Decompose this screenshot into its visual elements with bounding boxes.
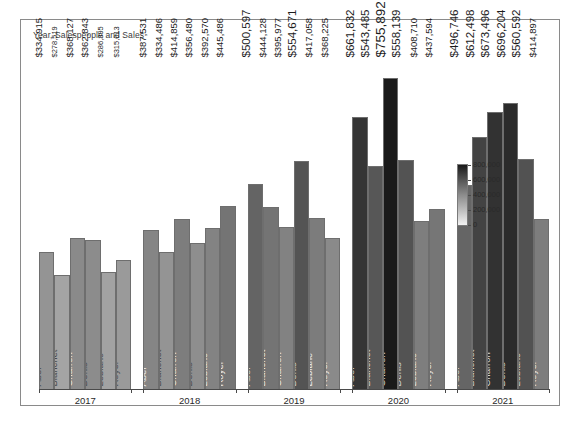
bar-name-label: Charron	[70, 352, 73, 386]
x-axis-tick	[236, 389, 237, 393]
bar[interactable]: Abel	[143, 230, 158, 390]
bar[interactable]: Leblanc	[518, 159, 533, 390]
bar[interactable]: Charron	[487, 112, 502, 390]
bar-wrapper: $661,832Abel	[352, 60, 367, 390]
x-axis-tick	[340, 389, 341, 393]
bar[interactable]: Royer	[429, 209, 444, 390]
bar-name-holder: Leblanc	[519, 341, 532, 387]
colorbar-tick-label: 800,000	[473, 161, 500, 169]
bar[interactable]: Leblanc	[309, 218, 324, 390]
bar-wrapper: $395,977Charron	[279, 60, 294, 390]
bar[interactable]: Denis	[85, 240, 100, 390]
x-label-2020: 2020	[352, 392, 444, 406]
bar-name-label: Denis	[190, 362, 193, 386]
bar-value-label: $444,128	[257, 17, 267, 57]
colorbar-tick-label: 400,000	[473, 191, 500, 199]
bar-value-label: $612,498	[464, 9, 476, 57]
bar-name-holder: Abel	[249, 341, 262, 387]
bar-name-label: Abel	[39, 367, 42, 386]
bar-name-label: Leblanc	[414, 353, 417, 386]
bar[interactable]: Denis	[398, 160, 413, 390]
bar-wrapper: $554,671Denis	[294, 60, 309, 390]
bar[interactable]: Denis	[503, 103, 518, 390]
group-spacer	[340, 60, 352, 390]
bar-name-holder: Royer	[117, 341, 130, 387]
group-spacer	[445, 60, 457, 390]
bar-value-label: $414,859	[168, 17, 178, 57]
bar-name-holder: Abel	[458, 341, 471, 387]
bar-wrapper: $368,225Royer	[325, 60, 340, 390]
bar-name-label: Blanchet	[472, 349, 475, 386]
bar[interactable]: Abel	[248, 184, 263, 390]
bar-name-label: Abel	[352, 367, 355, 386]
bar-wrapper: $437,594Royer	[429, 60, 444, 390]
bar-name-label: Denis	[294, 362, 297, 386]
x-label-2017: 2017	[39, 392, 131, 406]
bar-wrapper: $444,128Blanchet	[263, 60, 278, 390]
group-spacer	[131, 60, 143, 390]
bar[interactable]: Royer	[116, 260, 131, 390]
bar[interactable]: Denis	[294, 161, 309, 390]
bar-name-holder: Denis	[86, 341, 99, 387]
bar-name-label: Charron	[383, 352, 386, 386]
bar[interactable]: Royer	[220, 206, 235, 390]
bar[interactable]: Blanchet	[263, 207, 278, 390]
bar-name-label: Denis	[398, 362, 401, 386]
bar-name-holder: Blanchet	[473, 341, 486, 387]
bar[interactable]: Charron	[383, 78, 398, 390]
x-axis-tick	[131, 389, 132, 393]
bar-group-2017: $334,915Abel$278,519Blanchet$368,127Char…	[39, 60, 131, 390]
x-label-spacer	[131, 392, 143, 406]
x-axis-tick	[352, 389, 353, 393]
colorbar-tick-label: 0	[473, 221, 477, 229]
bar-value-label: $696,204	[495, 9, 507, 57]
bar-name-holder: Charron	[280, 341, 293, 387]
bar[interactable]: Charron	[279, 227, 294, 390]
bar-value-label: $500,597	[240, 9, 252, 57]
bar-name-label: Blanchet	[54, 349, 57, 386]
bar-name-label: Leblanc	[205, 353, 208, 386]
bar[interactable]: Leblanc	[205, 228, 220, 390]
bar[interactable]: Abel	[352, 117, 367, 390]
colorbar-tick	[468, 210, 471, 211]
bar-name-holder: Leblanc	[102, 341, 115, 387]
bar[interactable]: Blanchet	[54, 275, 69, 390]
x-axis-tick	[549, 389, 550, 393]
chart-screenshot: Year, Salespeople and Sales $334,915Abel…	[0, 0, 583, 421]
bar-name-holder: Leblanc	[415, 341, 428, 387]
bar-value-label: $661,832	[344, 9, 356, 57]
bar[interactable]: Abel	[39, 252, 54, 390]
colorbar-tick	[468, 180, 471, 181]
bar-name-holder: Royer	[326, 341, 339, 387]
bar[interactable]: Leblanc	[101, 272, 116, 390]
bar[interactable]: Royer	[534, 219, 549, 390]
bar-name-holder: Blanchet	[160, 341, 173, 387]
bar-wrapper: $315,013Royer	[116, 60, 131, 390]
bar-value-label: $286,395	[97, 26, 105, 57]
x-axis-tick	[457, 389, 458, 393]
bar[interactable]: Leblanc	[414, 221, 429, 390]
bar-name-holder: Leblanc	[310, 341, 323, 387]
colorbar-tick	[468, 225, 471, 226]
bar-name-holder: Royer	[221, 341, 234, 387]
bar-wrapper: $387,531Abel	[143, 60, 158, 390]
bar[interactable]: Denis	[190, 243, 205, 390]
bar-name-label: Royer	[534, 361, 537, 386]
bar[interactable]: Blanchet	[368, 166, 383, 390]
x-axis-tick	[248, 389, 249, 393]
bar-name-label: Royer	[116, 361, 119, 386]
bar[interactable]: Royer	[325, 238, 340, 390]
colorbar-gradient	[457, 164, 468, 226]
chart-frame: Year, Salespeople and Sales $334,915Abel…	[20, 19, 560, 406]
bar-wrapper: $334,486Blanchet	[159, 60, 174, 390]
bar[interactable]: Charron	[174, 219, 189, 390]
bar-name-label: Denis	[85, 362, 88, 386]
bar-value-label: $408,710	[408, 17, 418, 57]
bar[interactable]: Charron	[70, 238, 85, 390]
bar-wrapper: $500,597Abel	[248, 60, 263, 390]
bar-name-label: Leblanc	[309, 353, 312, 386]
bar[interactable]: Blanchet	[159, 252, 174, 390]
x-label-spacer	[445, 392, 457, 406]
bar-name-holder: Denis	[191, 341, 204, 387]
bar-value-label: $414,897	[528, 17, 538, 57]
